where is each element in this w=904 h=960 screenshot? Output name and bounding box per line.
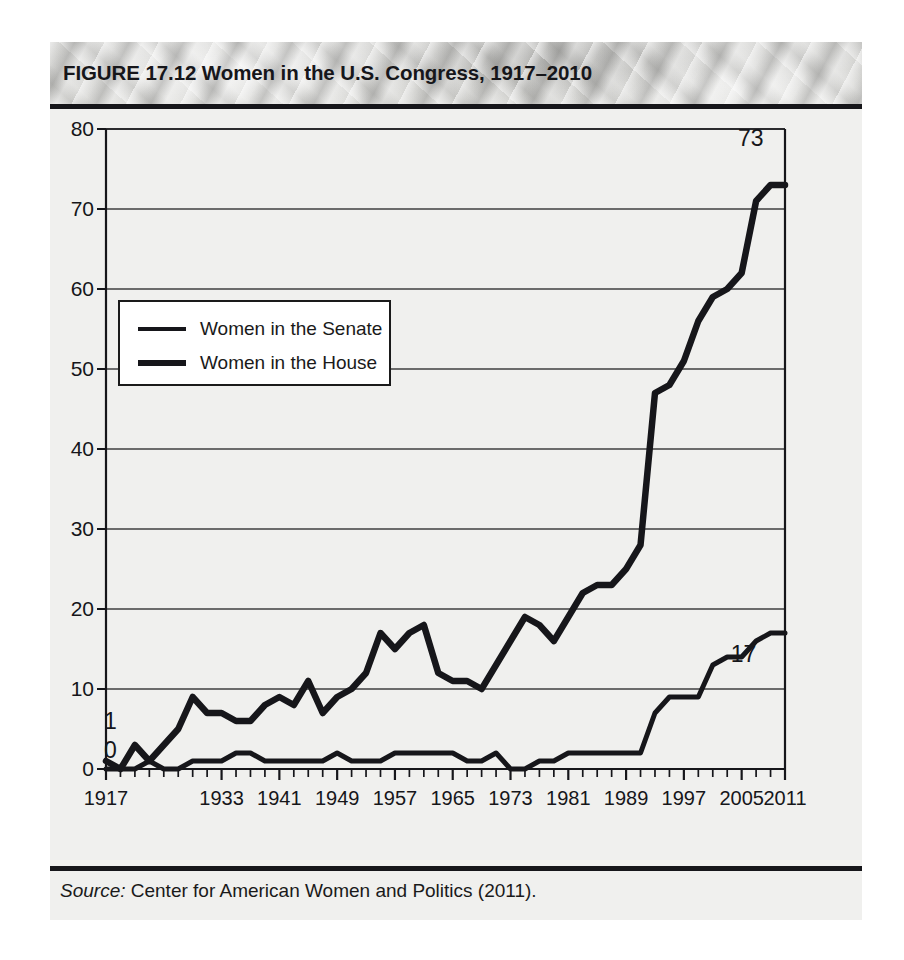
x-tick-label-1957: 1957 (373, 787, 418, 810)
x-tick-label-1941: 1941 (257, 787, 302, 810)
y-tick-label-50: 50 (48, 357, 94, 381)
y-tick-label-40: 40 (48, 437, 94, 461)
figure-page: FIGURE 17.12 Women in the U.S. Congress,… (0, 0, 904, 960)
y-tick-label-30: 30 (48, 517, 94, 541)
x-tick-label-1917: 1917 (84, 787, 129, 810)
annotation-house-start-value: 1 (104, 708, 117, 735)
chart-legend: Women in the Senate Women in the House (118, 300, 391, 386)
legend-swatch-house-icon (138, 360, 186, 366)
annotation-senate-end-value: 17 (731, 641, 757, 668)
x-tick-label-1997: 1997 (662, 787, 707, 810)
line-chart (50, 109, 862, 859)
source-text: Center for American Women and Politics (… (125, 880, 536, 901)
y-tick-label-0: 0 (48, 757, 94, 781)
figure-title: FIGURE 17.12 Women in the U.S. Congress,… (63, 61, 592, 85)
x-tick-label-2011: 2011 (763, 787, 806, 810)
x-tick-label-1981: 1981 (546, 787, 591, 810)
figure-panel: FIGURE 17.12 Women in the U.S. Congress,… (50, 42, 862, 920)
series-line-women-in-the-senate (106, 633, 785, 769)
source-label: Source: (60, 880, 125, 901)
x-tick-label-1973: 1973 (488, 787, 533, 810)
x-tick-label-1965: 1965 (430, 787, 475, 810)
legend-label-house: Women in the House (200, 352, 377, 374)
chart-area: 01020304050607080 1917193319411949195719… (50, 109, 862, 859)
x-tick-label-2005: 2005 (719, 787, 764, 810)
y-tick-label-60: 60 (48, 277, 94, 301)
legend-item-senate: Women in the Senate (120, 314, 389, 344)
y-tick-label-80: 80 (48, 117, 94, 141)
figure-header-band: FIGURE 17.12 Women in the U.S. Congress,… (50, 42, 862, 104)
annotation-house-end-value: 73 (738, 125, 764, 152)
x-tick-label-1949: 1949 (315, 787, 360, 810)
legend-label-senate: Women in the Senate (200, 318, 382, 340)
source-line: Source: Center for American Women and Po… (60, 880, 537, 902)
gridlines (106, 129, 785, 689)
x-tick-label-1989: 1989 (604, 787, 649, 810)
series-line-women-in-the-house (106, 185, 785, 769)
legend-item-house: Women in the House (120, 348, 389, 378)
x-tick-label-1933: 1933 (199, 787, 244, 810)
y-axis-ticks (97, 129, 106, 769)
legend-swatch-senate-icon (138, 327, 186, 331)
y-tick-label-10: 10 (48, 677, 94, 701)
annotation-senate-start-value: 0 (104, 737, 117, 764)
y-tick-label-70: 70 (48, 197, 94, 221)
footer-divider-rule (50, 866, 862, 871)
y-tick-label-20: 20 (48, 597, 94, 621)
x-axis-ticks (106, 769, 785, 780)
